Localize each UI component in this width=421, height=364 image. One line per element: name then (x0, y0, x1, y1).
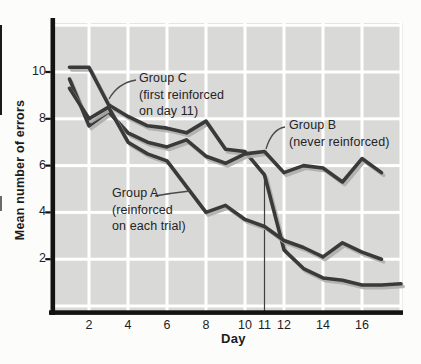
x-tick-label: 14 (312, 318, 334, 332)
annotation-line: Group C (139, 70, 224, 87)
y-tick-label: 10 (28, 64, 46, 78)
chart-canvas (0, 0, 421, 364)
x-tick-label: 6 (156, 318, 178, 332)
annotation-line: on day 11) (139, 103, 224, 120)
annotation-line: (never reinforced) (289, 134, 389, 151)
x-tick-label: 4 (117, 318, 139, 332)
x-tick-label: 2 (78, 318, 100, 332)
x-tick-label: 16 (351, 318, 373, 332)
annotation-line: (first reinforced (139, 87, 224, 104)
y-tick-label: 2 (28, 251, 46, 265)
annotation-line: Group B (289, 117, 389, 134)
y-tick-label: 8 (28, 111, 46, 125)
figure-latent-learning-chart: Mean number of errors Day 108642 2468101… (0, 0, 421, 364)
x-tick-label: 8 (195, 318, 217, 332)
annotation-group-b: Group B (never reinforced) (289, 117, 389, 150)
annotation-line: Group A (112, 185, 186, 202)
annotation-line: (reinforced (112, 202, 186, 219)
y-tick-label: 4 (28, 204, 46, 218)
y-axis-title: Mean number of errors (13, 100, 27, 240)
annotation-group-a: Group A (reinforced on each trial) (112, 185, 186, 235)
annotation-group-c: Group C (first reinforced on day 11) (139, 70, 224, 120)
y-tick-label: 6 (28, 158, 46, 172)
x-tick-label: 12 (273, 318, 295, 332)
x-axis-title: Day (221, 331, 246, 346)
annotation-line: on each trial) (112, 218, 186, 235)
